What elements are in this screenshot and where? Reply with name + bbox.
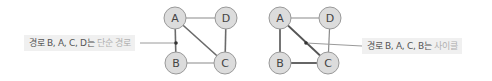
node-label: C: [324, 57, 332, 70]
callout-text: 경로 B, A, C, B는: [367, 41, 434, 51]
node-b: B: [165, 52, 187, 74]
node-label: A: [276, 12, 284, 25]
callout-anchor-dot: [174, 41, 178, 45]
node-label: D: [222, 12, 230, 25]
node-c: C: [214, 52, 236, 74]
cycle-callout: 경로 B, A, C, B는 사이클: [362, 38, 462, 54]
node-d: D: [215, 7, 237, 29]
node-label: D: [326, 12, 334, 25]
node-label: C: [221, 57, 229, 70]
node-a: A: [164, 7, 186, 29]
node-label: A: [171, 12, 179, 25]
node-label: B: [276, 57, 284, 70]
node-d: D: [319, 7, 341, 29]
node-b: B: [269, 52, 291, 74]
callout-emphasis: 사이클: [434, 41, 457, 51]
simple-path-callout: 경로 B, A, C, D는 단순 경로: [24, 35, 135, 51]
callout-leader-line: [306, 43, 362, 46]
cycle-graph: A D B C: [269, 7, 362, 74]
node-a: A: [269, 7, 291, 29]
callout-emphasis: 단순 경로: [97, 38, 130, 48]
node-label: B: [172, 57, 180, 70]
callout-text: 경로 B, A, C, D는: [29, 38, 97, 48]
callout-anchor-dot: [304, 41, 308, 45]
node-c: C: [317, 52, 339, 74]
simple-path-graph: A D B C: [140, 7, 237, 74]
